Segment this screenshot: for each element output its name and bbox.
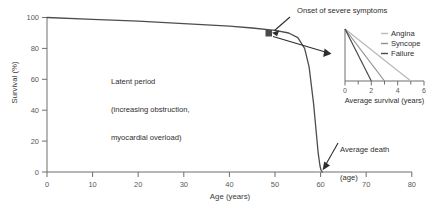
- inset-legend-label-angina: Angina: [391, 29, 415, 38]
- x-tick-label-60: 60: [311, 180, 331, 189]
- onset-of-severe-symptoms-annotation: Onset of severe symptoms: [297, 6, 387, 15]
- y-axis-ticks: [42, 18, 47, 173]
- inset-x-axis-ticks: [345, 81, 424, 86]
- y-axis-title: Survival (%): [10, 56, 19, 110]
- inset-x-axis-title: Average survival (years): [329, 96, 439, 105]
- y-tick-label-0: 0: [21, 168, 39, 177]
- inset-legend-swatches: [381, 34, 388, 54]
- y-tick-label-20: 20: [21, 137, 39, 146]
- average-death-line-2: (age): [340, 173, 389, 182]
- average-death-line-1: Average death: [340, 145, 389, 154]
- y-tick-label-100: 100: [21, 13, 39, 22]
- inset-legend-label-failure: Failure: [391, 49, 414, 58]
- y-tick-label-40: 40: [21, 106, 39, 115]
- inset-x-tick-label-4: 4: [390, 87, 406, 94]
- inset-legend-label-syncope: Syncope: [391, 39, 421, 48]
- average-death-arrow-icon: [323, 143, 338, 170]
- x-tick-label-10: 10: [83, 180, 103, 189]
- onset-marker-icon: [266, 30, 273, 37]
- inset-line-failure: [345, 29, 371, 81]
- x-tick-label-0: 0: [37, 180, 57, 189]
- latent-period-annotation: Latent period (increasing obstruction, m…: [111, 58, 190, 161]
- survival-curve-figure: Survival (%) 100 80 60 40 20 0 0 10 20 3…: [0, 0, 439, 209]
- x-tick-label-40: 40: [219, 180, 239, 189]
- y-tick-label-80: 80: [21, 44, 39, 53]
- average-death-annotation: Average death (age): [340, 126, 389, 201]
- x-tick-label-30: 30: [174, 180, 194, 189]
- latent-period-line-3: myocardial overload): [111, 133, 190, 142]
- x-tick-label-80: 80: [402, 180, 422, 189]
- latent-period-line-1: Latent period: [111, 77, 190, 86]
- x-axis-title: Age (years): [190, 192, 270, 201]
- inset-x-tick-label-0: 0: [337, 87, 353, 94]
- inset-x-tick-label-6: 6: [416, 87, 432, 94]
- x-tick-label-20: 20: [128, 180, 148, 189]
- inset-pointer-arrow-icon: [273, 37, 332, 58]
- latent-period-line-2: (increasing obstruction,: [111, 105, 190, 114]
- y-tick-label-60: 60: [21, 75, 39, 84]
- x-tick-label-50: 50: [265, 180, 285, 189]
- inset-x-tick-label-2: 2: [363, 87, 379, 94]
